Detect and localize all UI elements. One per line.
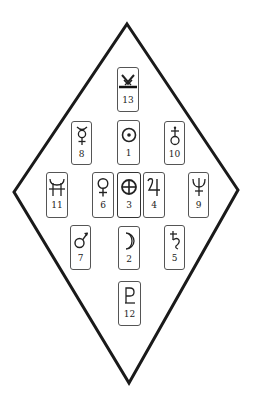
planetary-diamond-diagram: 13 8 1: [0, 0, 253, 407]
card-8: 8: [71, 121, 92, 165]
card-6: 6: [92, 172, 114, 218]
mercury-icon: [72, 125, 91, 147]
card-2: 2: [118, 226, 140, 270]
card-9: 9: [188, 172, 209, 218]
sun-icon: [118, 124, 139, 146]
card-number: 6: [100, 200, 106, 210]
saturn-icon: [165, 229, 184, 251]
card-number: 9: [196, 200, 202, 210]
card-11: 11: [46, 172, 68, 218]
mars-icon: [71, 229, 90, 251]
card-number: 2: [126, 254, 132, 264]
card-number: 1: [126, 148, 132, 158]
card-10: 10: [164, 121, 185, 165]
neptune-alt-icon: [47, 176, 67, 198]
card-1: 1: [117, 120, 140, 165]
neptune-icon: [189, 176, 208, 198]
jupiter-icon: [144, 176, 164, 198]
uranus-icon: [165, 125, 184, 147]
uranian-vulcanus-icon: [118, 71, 138, 93]
card-number: 11: [51, 200, 62, 210]
card-number: 5: [172, 253, 178, 263]
venus-icon: [93, 176, 113, 198]
card-number: 13: [122, 95, 133, 105]
pluto-icon: [119, 285, 140, 307]
card-4: 4: [143, 172, 165, 218]
earth-icon: [118, 176, 140, 198]
card-number: 12: [124, 309, 135, 319]
card-number: 4: [151, 200, 157, 210]
card-13: 13: [117, 67, 139, 112]
moon-icon: [119, 230, 139, 252]
card-5: 5: [164, 225, 185, 270]
card-3: 3: [117, 172, 141, 218]
card-number: 8: [79, 149, 85, 159]
card-number: 3: [126, 200, 132, 210]
card-12: 12: [118, 281, 141, 326]
card-7: 7: [70, 225, 91, 270]
card-number: 7: [78, 253, 84, 263]
card-number: 10: [169, 149, 180, 159]
